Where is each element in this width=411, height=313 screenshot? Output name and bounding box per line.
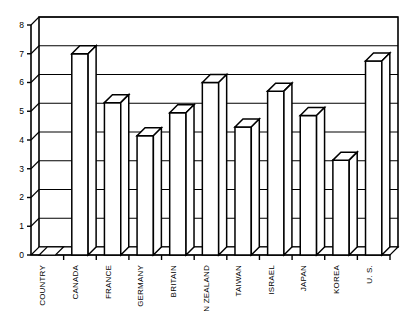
y-axis-tick-label: 2: [19, 192, 24, 202]
gridline-depth-connector: [31, 103, 39, 111]
x-axis-category-label: KOREA: [332, 265, 341, 294]
y-axis-tick-label: 1: [19, 221, 24, 231]
x-axis-category-label: U. S.: [365, 265, 374, 284]
bar-front-face-korea: [333, 160, 349, 255]
bar-side-face: [349, 152, 357, 255]
y-axis-tick-label: 6: [19, 77, 24, 87]
bar-side-face: [121, 95, 129, 255]
x-axis-category-label: TAIWAN: [234, 265, 243, 296]
bar-front-face-france: [104, 103, 120, 255]
gridline-depth-connector: [31, 46, 39, 54]
y-axis-tick-label: 0: [19, 250, 24, 260]
x-axis-category-label: N ZEALAND: [202, 265, 211, 312]
y-axis-tick-label: 5: [19, 106, 24, 116]
bar-front-face-n-zealand: [202, 83, 218, 256]
bar-front-face-germany: [137, 136, 153, 255]
bar-side-face: [219, 75, 227, 256]
gridline-depth-connector: [31, 218, 39, 226]
bar-front-face-canada: [72, 54, 88, 255]
bar-side-face: [317, 108, 325, 255]
gridline-depth-connector: [31, 75, 39, 83]
y-axis-tick-label: 3: [19, 164, 24, 174]
y-axis-tick-label: 7: [19, 49, 24, 59]
x-axis-category-label: GERMANY: [136, 265, 145, 307]
bar-side-face: [382, 53, 390, 255]
bar-side-face: [284, 83, 292, 255]
gridline-depth-connector: [31, 17, 39, 25]
bar-side-face: [88, 46, 96, 255]
x-axis-category-label: ISRAEL: [267, 265, 276, 295]
bar-chart: 012345678COUNTRYCANADAFRANCEGERMANYBRITA…: [0, 0, 411, 313]
x-axis-category-label: FRANCE: [104, 265, 113, 299]
bar-front-face-japan: [300, 116, 316, 255]
gridline-depth-connector: [31, 132, 39, 140]
bar-front-face-israel: [268, 91, 284, 255]
x-axis-category-label: COUNTRY: [38, 265, 47, 306]
x-axis-category-label: CANADA: [71, 265, 80, 300]
bar-side-face: [186, 105, 194, 255]
chart-canvas: 012345678COUNTRYCANADAFRANCEGERMANYBRITA…: [0, 0, 411, 313]
bar-front-face-taiwan: [235, 127, 251, 255]
bar-side-face: [153, 128, 161, 255]
y-axis-tick-label: 8: [19, 20, 24, 30]
x-axis-category-label: JAPAN: [299, 265, 308, 291]
bar-side-face: [251, 119, 259, 255]
gridline-depth-connector: [31, 161, 39, 169]
y-axis-tick-label: 4: [19, 135, 24, 145]
bar-front-face-britain: [170, 113, 186, 255]
gridline-depth-connector: [31, 190, 39, 198]
bar-front-face-u-s: [366, 61, 382, 255]
x-axis-category-label: BRITAIN: [169, 265, 178, 297]
